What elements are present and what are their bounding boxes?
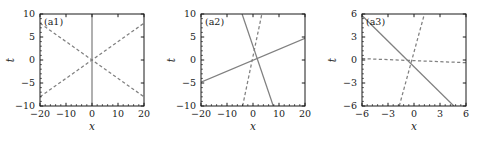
- y-axis-label: t: [326, 57, 338, 62]
- y-tick-label: −10: [176, 100, 196, 111]
- y-tick-label: 5: [29, 31, 35, 42]
- chart-panel-1: −20−1001020−10−50510(a1)xt: [0, 0, 161, 147]
- x-axis-label: x: [250, 120, 256, 132]
- y-tick-label: 10: [23, 8, 35, 19]
- chart-panel-3: −6−3036−6−3036(a3)xt: [322, 0, 483, 147]
- chart-canvas-2: −20−1001020−10−50510(a2)xt: [161, 0, 322, 147]
- panel-tag: (a3): [366, 16, 385, 27]
- x-tick-label: 0: [411, 108, 417, 119]
- x-tick-label: 10: [112, 108, 124, 119]
- y-tick-label: 6: [351, 8, 357, 19]
- y-tick-label: 0: [351, 54, 357, 65]
- y-tick-label: −6: [343, 100, 357, 111]
- chart-canvas-1: −20−1001020−10−50510(a1)xt: [0, 0, 161, 147]
- y-axis-label: t: [4, 57, 16, 62]
- x-tick-label: −3: [381, 108, 395, 119]
- chart-canvas-3: −6−3036−6−3036(a3)xt: [322, 0, 483, 147]
- x-tick-label: 0: [250, 108, 256, 119]
- y-tick-label: −5: [21, 77, 35, 88]
- x-tick-label: 20: [299, 108, 311, 119]
- x-tick-label: −10: [56, 108, 76, 119]
- y-tick-label: 0: [29, 54, 35, 65]
- figure-panel-row: −20−1001020−10−50510(a1)xt−20−1001020−10…: [0, 0, 484, 147]
- y-tick-label: −3: [343, 77, 357, 88]
- x-tick-label: 10: [273, 108, 285, 119]
- y-tick-label: 10: [184, 8, 196, 19]
- plot-area: [362, 14, 466, 106]
- x-tick-label: −6: [355, 108, 369, 119]
- panel-tag: (a1): [44, 16, 63, 27]
- y-tick-label: −5: [182, 77, 196, 88]
- y-tick-label: 5: [190, 31, 196, 42]
- chart-panel-2: −20−1001020−10−50510(a2)xt: [161, 0, 322, 147]
- panel-tag: (a2): [205, 16, 224, 27]
- x-tick-label: 6: [463, 108, 469, 119]
- x-tick-label: −10: [217, 108, 237, 119]
- x-axis-label: x: [411, 120, 417, 132]
- x-tick-label: 20: [138, 108, 150, 119]
- y-tick-label: 0: [190, 54, 196, 65]
- x-tick-label: 0: [89, 108, 95, 119]
- y-tick-label: −10: [15, 100, 35, 111]
- x-tick-label: 3: [437, 108, 443, 119]
- y-axis-label: t: [165, 57, 177, 62]
- y-tick-label: 3: [351, 31, 357, 42]
- x-axis-label: x: [89, 120, 95, 132]
